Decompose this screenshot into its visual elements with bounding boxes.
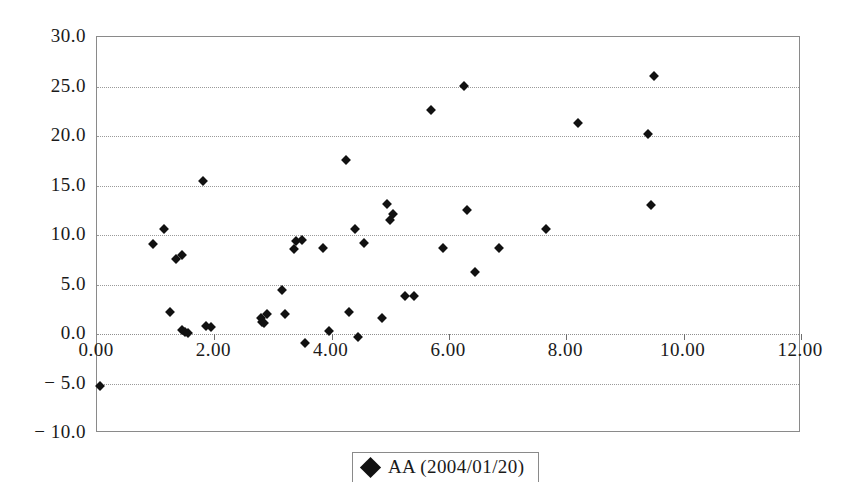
chart-legend: AA (2004/01/20): [352, 452, 539, 482]
gridline: [97, 384, 799, 385]
data-point: [462, 205, 472, 215]
data-point: [148, 239, 158, 249]
y-tick-label: 0.0: [0, 322, 86, 344]
y-tick-label: − 10.0: [0, 421, 86, 443]
data-point: [377, 313, 387, 323]
data-point: [426, 105, 436, 115]
data-point: [573, 118, 583, 128]
y-tick-label: 5.0: [0, 273, 86, 295]
data-point: [300, 338, 310, 348]
x-tick-label: 2.00: [196, 339, 231, 361]
data-point: [646, 200, 656, 210]
data-point: [160, 224, 170, 234]
data-point: [198, 176, 208, 186]
y-tick-label: 30.0: [0, 25, 86, 47]
y-tick-label: 15.0: [0, 174, 86, 196]
data-point: [297, 235, 307, 245]
data-point: [350, 224, 360, 234]
data-point: [644, 129, 654, 139]
data-point: [541, 224, 551, 234]
x-tick-label: 8.00: [548, 339, 583, 361]
data-point: [649, 71, 659, 81]
x-tick-label: 6.00: [430, 339, 465, 361]
chart-canvas: − 10.0− 5.00.05.010.015.020.025.030.0 0.…: [0, 0, 842, 482]
y-tick-label: 20.0: [0, 124, 86, 146]
data-point: [289, 244, 299, 254]
legend-series-label: AA (2004/01/20): [388, 456, 524, 478]
data-point: [438, 243, 448, 253]
data-point: [206, 322, 216, 332]
gridline: [97, 285, 799, 286]
x-tick-label: 12.00: [777, 339, 822, 361]
x-axis-line: [97, 334, 799, 335]
data-point: [318, 243, 328, 253]
x-tick-label: 0.00: [78, 339, 113, 361]
data-point: [459, 81, 469, 91]
data-point: [344, 307, 354, 317]
legend-diamond-icon: [360, 456, 381, 477]
data-point: [470, 267, 480, 277]
gridline: [97, 87, 799, 88]
y-tick-label: 10.0: [0, 223, 86, 245]
data-point: [280, 309, 290, 319]
plot-area: [96, 36, 800, 432]
gridline: [97, 235, 799, 236]
data-point: [277, 285, 287, 295]
data-point: [494, 243, 504, 253]
data-point: [382, 199, 392, 209]
y-tick-label: 25.0: [0, 75, 86, 97]
y-tick-label: − 5.0: [0, 372, 86, 394]
data-point: [341, 155, 351, 165]
x-tick-label: 4.00: [313, 339, 348, 361]
data-point: [359, 238, 369, 248]
data-point: [409, 291, 419, 301]
data-point: [165, 307, 175, 317]
x-tick-label: 10.00: [660, 339, 705, 361]
gridline: [97, 136, 799, 137]
